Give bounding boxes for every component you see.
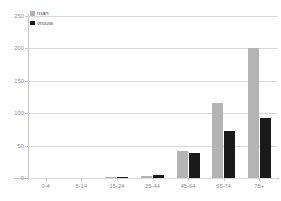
x-axis-tick-mark [153, 178, 154, 181]
x-axis-tick-mark [81, 178, 82, 181]
y-axis-tick-label: 50 [0, 143, 24, 149]
bar-series-container [28, 16, 277, 178]
x-axis-tick-mark [224, 178, 225, 181]
x-axis-tick-label: 45-64 [170, 183, 206, 190]
bar-man-25-44 [141, 176, 152, 178]
legend-swatch-man [30, 11, 35, 16]
y-axis-tick-label: 100 [0, 110, 24, 116]
x-axis-tick-label: 65-74 [206, 183, 242, 190]
y-axis-tick-label: 150 [0, 78, 24, 84]
bar-group [248, 16, 271, 178]
x-axis-tick-mark [117, 178, 118, 181]
x-axis-tick-label: 15-24 [99, 183, 135, 190]
x-axis-tick-label: 75+ [241, 183, 277, 190]
plot-area [28, 16, 277, 178]
bar-group [212, 16, 235, 178]
bar-group [34, 16, 57, 178]
x-axis-tick-label: 5-14 [64, 183, 100, 190]
bar-man-65-74 [212, 103, 223, 178]
y-axis-tick-label: 250 [0, 13, 24, 19]
bar-group [70, 16, 93, 178]
bar-chart: man vrouw 050100150200250 0-45-1415-2425… [0, 0, 281, 201]
x-axis-tick-label: 0-4 [28, 183, 64, 190]
y-axis-tick-labels: 050100150200250 [0, 0, 26, 201]
bar-group [105, 16, 128, 178]
x-axis-tick-labels: 0-45-1415-2425-4445-6465-7475+ [28, 183, 277, 197]
bar-man-45-64 [177, 151, 188, 178]
bar-man-15-24 [105, 177, 116, 178]
bar-vrouw-65-74 [224, 131, 235, 178]
x-axis-tick-mark [259, 178, 260, 181]
bar-vrouw-15-24 [117, 177, 128, 178]
x-axis-tick-mark [188, 178, 189, 181]
bar-group [177, 16, 200, 178]
y-axis-tick-label: 200 [0, 45, 24, 51]
bar-vrouw-45-64 [189, 153, 200, 178]
bar-man-75+ [248, 48, 259, 178]
bar-group [141, 16, 164, 178]
bar-vrouw-25-44 [153, 175, 164, 178]
x-axis-tick-mark [46, 178, 47, 181]
x-axis-tick-label: 25-44 [135, 183, 171, 190]
bar-vrouw-75+ [260, 118, 271, 178]
